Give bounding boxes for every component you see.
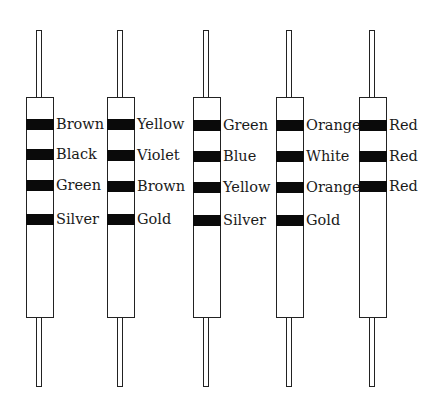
lead-top [203, 30, 209, 98]
lead-bottom [203, 317, 209, 387]
band-label: Gold [306, 213, 340, 228]
band-label: Red [389, 179, 418, 194]
color-band [193, 215, 221, 226]
band-label: Green [223, 118, 268, 133]
lead-bottom [286, 317, 292, 387]
lead-top [286, 30, 292, 98]
band-label: Orange [306, 180, 361, 195]
color-band [359, 151, 387, 162]
band-label: Silver [223, 213, 266, 228]
color-band [359, 120, 387, 131]
band-label: Red [389, 118, 418, 133]
resistor-body [107, 97, 135, 318]
band-label: Red [389, 149, 418, 164]
color-band [193, 151, 221, 162]
color-band [276, 215, 304, 226]
color-band [107, 150, 135, 161]
resistor-5: RedRedRed [0, 0, 90, 415]
band-label: Yellow [137, 117, 184, 132]
color-band [193, 182, 221, 193]
color-band [276, 151, 304, 162]
band-label: Brown [137, 179, 185, 194]
band-label: Gold [137, 212, 171, 227]
color-band [107, 119, 135, 130]
band-label: Violet [137, 148, 180, 163]
lead-bottom [117, 317, 123, 387]
color-band [107, 214, 135, 225]
lead-top [117, 30, 123, 98]
band-label: Orange [306, 118, 361, 133]
lead-top [369, 30, 375, 98]
lead-bottom [369, 317, 375, 387]
band-label: Yellow [223, 180, 270, 195]
color-band [193, 120, 221, 131]
color-band [276, 182, 304, 193]
color-band [107, 181, 135, 192]
band-label: White [306, 149, 349, 164]
band-label: Blue [223, 149, 256, 164]
color-band [359, 181, 387, 192]
color-band [276, 120, 304, 131]
